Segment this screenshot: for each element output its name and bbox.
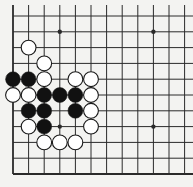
- white-stone[interactable]: [84, 72, 99, 87]
- black-stone[interactable]: [37, 103, 52, 118]
- white-stone[interactable]: [37, 56, 52, 71]
- black-stone[interactable]: [37, 119, 52, 134]
- black-stone[interactable]: [37, 88, 52, 103]
- star-point-icon: [151, 124, 155, 128]
- white-stone[interactable]: [37, 135, 52, 150]
- star-point-icon: [58, 30, 62, 34]
- white-stone[interactable]: [52, 135, 67, 150]
- star-point-icon: [151, 30, 155, 34]
- white-stone[interactable]: [84, 119, 99, 134]
- white-stone[interactable]: [68, 72, 83, 87]
- white-stone[interactable]: [6, 88, 21, 103]
- white-stone[interactable]: [21, 119, 36, 134]
- star-point-icon: [58, 124, 62, 128]
- black-stone[interactable]: [21, 103, 36, 118]
- white-stone[interactable]: [21, 40, 36, 55]
- go-board-canvas[interactable]: [0, 0, 193, 187]
- black-stone[interactable]: [6, 72, 21, 87]
- go-board[interactable]: [0, 0, 193, 187]
- white-stone[interactable]: [84, 88, 99, 103]
- black-stone[interactable]: [68, 88, 83, 103]
- black-stone[interactable]: [21, 72, 36, 87]
- white-stone[interactable]: [68, 135, 83, 150]
- black-stone[interactable]: [68, 103, 83, 118]
- white-stone[interactable]: [84, 103, 99, 118]
- black-stone[interactable]: [52, 88, 67, 103]
- white-stone[interactable]: [37, 72, 52, 87]
- white-stone[interactable]: [21, 88, 36, 103]
